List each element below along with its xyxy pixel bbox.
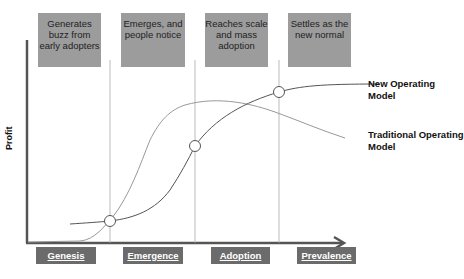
y-axis-label: Profit (4, 127, 14, 151)
intersection-marker (274, 87, 285, 98)
top-box-adoption: Reaches scale and mass adoption (205, 13, 268, 67)
new-operating-model-label: New Operating Model (368, 78, 464, 102)
phase-prevalence: Prevalence (297, 247, 356, 264)
traditional-operating-model-label: Traditional Operating Model (368, 129, 464, 153)
intersection-marker (105, 216, 116, 227)
traditional-operating-model-curve (28, 101, 345, 242)
phase-adoption: Adoption (211, 247, 270, 264)
top-box-emergence: Emerges, and people notice (121, 13, 185, 67)
intersection-marker (190, 141, 201, 152)
top-box-genesis: Generates buzz from early adopters (38, 13, 101, 67)
top-box-prevalence: Settles as the new normal (288, 13, 351, 67)
phase-emergence: Emergence (123, 247, 183, 264)
phase-genesis: Genesis (36, 247, 96, 264)
s-curve-diagram: Profit Generates buzz from early adopter… (0, 0, 464, 279)
new-operating-model-curve (70, 84, 380, 224)
